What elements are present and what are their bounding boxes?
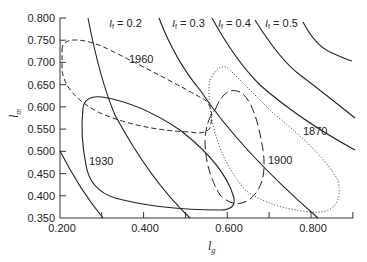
label-1930: 1930 [89,155,113,167]
axes [60,18,353,218]
x-tick-labels: 0.200 0.400 0.600 0.800 [48,222,327,234]
y-tick: 0.450 [27,168,55,180]
iso-line-0.4 [212,18,355,150]
x-tick: 0.600 [215,222,243,234]
x-tick: 0.800 [299,222,327,234]
label-1960: 1960 [129,53,153,65]
iso-labels: lf = 0.2 lf = 0.3 lf = 0.4 lf = 0.5 [109,17,298,30]
iso-lines [60,18,355,218]
x-axis-title: lg [208,239,215,255]
y-tick: 0.500 [27,145,55,157]
curve-1900 [205,90,264,203]
label-1870: 1870 [303,125,327,137]
y-tick-labels: 0.800 0.750 0.700 0.650 0.600 0.550 0.50… [27,12,55,224]
y-tick: 0.650 [27,79,55,91]
iso-line-0.6 [303,22,352,61]
iso-line-0.2b [88,18,190,218]
y-axis-title: lm [7,109,23,118]
curve-1870 [209,67,339,213]
y-tick: 0.750 [27,34,55,46]
y-tick: 0.700 [27,56,55,68]
iso-line-0.3 [159,18,318,218]
chart: 0.800 0.750 0.700 0.650 0.600 0.550 0.50… [0,0,367,262]
y-tick: 0.400 [27,190,55,202]
y-tick: 0.550 [27,123,55,135]
label-1900: 1900 [268,154,292,166]
iso-label-0.2: lf = 0.2 [109,17,142,30]
x-tick: 0.400 [131,222,159,234]
iso-label-0.4: lf = 0.4 [218,17,251,30]
y-tick: 0.800 [27,12,55,24]
iso-label-0.3: lf = 0.3 [172,17,205,30]
x-tick: 0.200 [48,222,76,234]
y-tick: 0.600 [27,101,55,113]
iso-line-0.5 [255,20,355,118]
iso-label-0.5: lf = 0.5 [265,17,298,30]
